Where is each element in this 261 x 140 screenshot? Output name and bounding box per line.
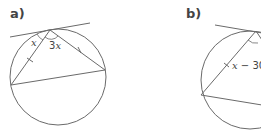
diagram-b-angle-label: x − 30 [232, 60, 261, 71]
diagram-b-chord-base [201, 95, 261, 105]
diagram-b: b) x − 30 [186, 6, 261, 129]
diagram-b-angle-arc [248, 40, 258, 43]
diagram-a: a) x 3x [10, 6, 106, 125]
diagram-a-angle-arc-3x [45, 36, 58, 39]
diagram-b-label: b) [186, 6, 201, 21]
diagram-b-tangent-line [215, 25, 261, 33]
diagram-a-angle-label-x: x [31, 37, 37, 48]
diagram-a-angle-label-3x: 3x [49, 40, 61, 51]
diagram-a-chord-base [11, 70, 105, 85]
diagram-a-angle-arc-x [37, 34, 43, 40]
diagram-a-equal-tick-right [78, 47, 81, 53]
circle-theorem-diagrams: a) x 3x b) x − 30 [0, 0, 261, 140]
diagram-a-label: a) [10, 6, 25, 21]
diagram-b-circle [201, 31, 261, 129]
